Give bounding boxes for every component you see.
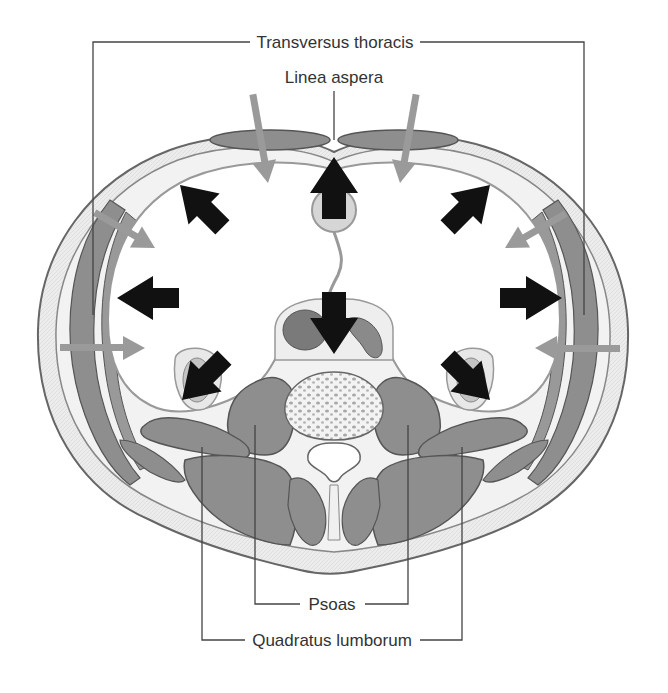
label-psoas: Psoas <box>308 595 355 614</box>
rectus-left <box>210 130 330 150</box>
spinous-process <box>328 485 340 540</box>
abdomen-cross-section-diagram: Transversus thoracis Linea aspera Psoas … <box>0 0 668 693</box>
vertebral-body <box>285 372 383 440</box>
label-transversus-thoracis: Transversus thoracis <box>256 33 413 52</box>
label-linea-aspera: Linea aspera <box>285 68 384 87</box>
rectus-right <box>338 130 458 150</box>
label-quadratus-lumborum: Quadratus lumborum <box>252 631 412 650</box>
